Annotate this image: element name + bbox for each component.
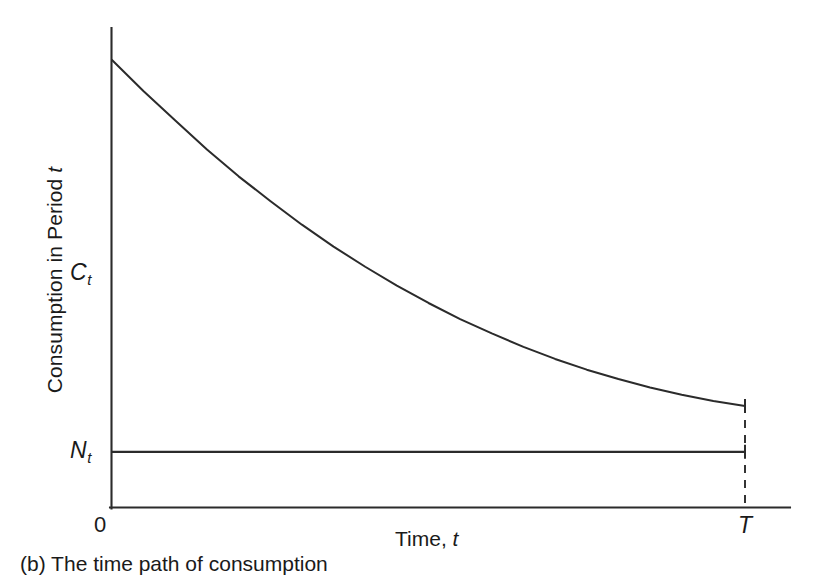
series-label-ct-subscript: t [87, 271, 91, 288]
y-axis-title: Consumption in Period t [43, 130, 67, 430]
x-axis-t-label: T [738, 512, 752, 539]
x-axis-title-italic: t [453, 527, 459, 550]
x-axis-title: Time, t [395, 527, 458, 551]
figure-caption: (b) The time path of consumption [20, 552, 328, 576]
series-label-nt-subscript: t [87, 449, 91, 466]
x-axis-title-main: Time, [395, 527, 453, 550]
series-label-nt: Nt [70, 437, 91, 464]
x-axis-origin-label: 0 [94, 512, 106, 538]
figure-root: Consumption in Period t Ct Nt 0 T Time, … [0, 0, 821, 585]
consumption-curve-ct-path [112, 60, 745, 406]
series-label-ct-base: C [70, 259, 87, 285]
series-label-ct: Ct [70, 259, 91, 286]
y-axis-title-italic: t [43, 167, 66, 173]
y-axis-title-main: Consumption in Period [43, 173, 66, 394]
chart-plot-area [0, 0, 821, 585]
series-label-nt-base: N [70, 437, 87, 463]
